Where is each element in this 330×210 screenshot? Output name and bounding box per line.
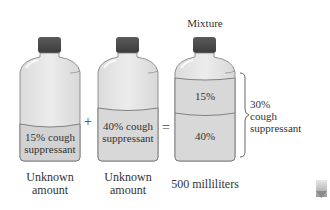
mixture-amount: 500 milliliters	[165, 178, 245, 191]
mixture-layer-bottom: 40%	[190, 131, 220, 143]
bottle-cap-icon	[38, 37, 61, 53]
pencil-icon[interactable]	[316, 180, 327, 198]
bottle-cap-icon	[116, 37, 139, 53]
brace	[240, 73, 249, 157]
bottle-b-content-label: 40% cough suppressant	[98, 121, 158, 144]
bottle-a-content-label: 15% cough suppressant	[20, 132, 80, 155]
bottle-a-amount: Unknown amount	[18, 171, 82, 196]
equals-operator: =	[160, 121, 172, 136]
bottle-cap-icon	[193, 37, 216, 53]
mixture-layer-top: 15%	[190, 91, 220, 103]
result-label: 30% cough suppressant	[250, 98, 301, 134]
mixture-title: Mixture	[184, 18, 226, 30]
bottle-b-amount: Unknown amount	[96, 171, 160, 196]
plus-operator: +	[82, 115, 94, 130]
